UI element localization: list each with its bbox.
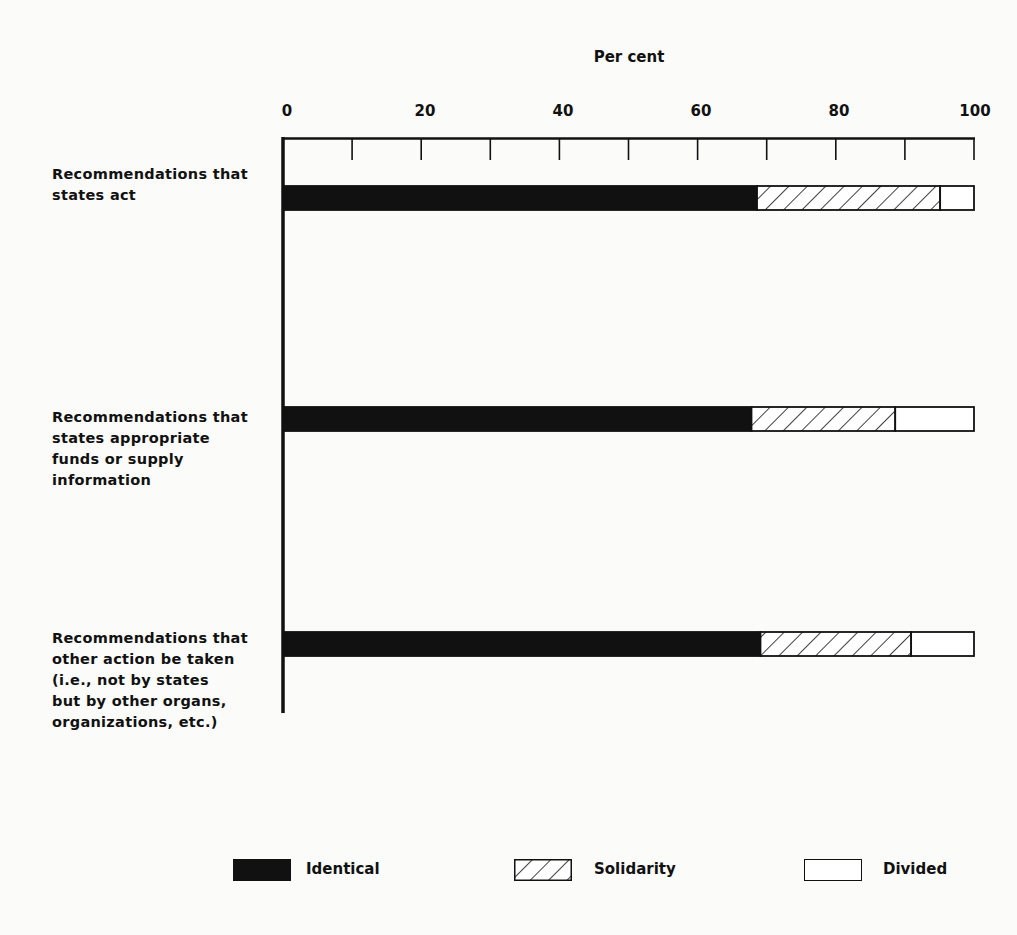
- category-label-1: Recommendations that states act: [52, 164, 267, 206]
- legend-swatch-empty-icon: [804, 859, 862, 881]
- bar-segment-solidarity: [760, 632, 911, 656]
- category-label-line: organizations, etc.): [52, 712, 267, 733]
- legend-swatch-hatch-icon: [514, 859, 572, 881]
- x-axis-ticks: [352, 139, 974, 160]
- bar-segment-identical: [283, 186, 757, 210]
- category-label-3: Recommendations that other action be tak…: [52, 628, 267, 733]
- category-label-line: information: [52, 470, 267, 491]
- legend-label: Solidarity: [594, 860, 676, 878]
- bars: [283, 186, 974, 656]
- category-label-line: Recommendations that: [52, 164, 267, 185]
- bar-segment-solidarity: [751, 407, 895, 431]
- category-label-line: states appropriate: [52, 428, 267, 449]
- legend-label: Divided: [883, 860, 947, 878]
- legend-swatch-solid-icon: [233, 859, 291, 881]
- category-label-line: funds or supply: [52, 449, 267, 470]
- category-label-line: states act: [52, 185, 267, 206]
- category-label-line: Recommendations that: [52, 407, 267, 428]
- category-label-line: (i.e., not by states: [52, 670, 267, 691]
- category-label-line: but by other organs,: [52, 691, 267, 712]
- category-label-2: Recommendations that states appropriate …: [52, 407, 267, 491]
- category-label-line: Recommendations that: [52, 628, 267, 649]
- bar-segment-divided: [911, 632, 974, 656]
- bar-segment-solidarity: [757, 186, 940, 210]
- category-label-line: other action be taken: [52, 649, 267, 670]
- bar-segment-identical: [283, 632, 760, 656]
- legend-label: Identical: [306, 860, 380, 878]
- bar-segment-divided: [895, 407, 974, 431]
- bar-segment-divided: [940, 186, 974, 210]
- bar-segment-identical: [283, 407, 751, 431]
